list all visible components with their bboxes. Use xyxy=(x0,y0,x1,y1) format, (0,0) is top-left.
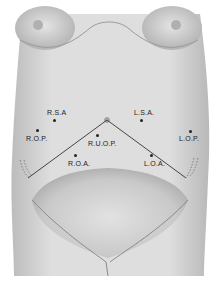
position-dot-rop xyxy=(36,129,39,132)
position-label-lsa: L.S.A. xyxy=(134,109,154,116)
obstetric-abdomen-illustration: R.S.A L.S.A. R.O.P. L.O.P. R.U.O.P. R.O.… xyxy=(0,0,218,282)
position-dot-lop xyxy=(189,130,192,133)
position-label-loa: L.O.A. xyxy=(144,160,165,167)
position-label-roa: R.O.A. xyxy=(68,160,90,167)
position-label-rsa: R.S.A xyxy=(47,109,66,116)
position-label-ruop: R.U.O.P. xyxy=(88,140,117,147)
position-dot-roa xyxy=(74,154,77,157)
position-label-rop: R.O.P. xyxy=(26,135,47,142)
position-dot-ruop xyxy=(96,134,99,137)
position-dot-loa xyxy=(150,154,153,157)
position-label-lop: L.O.P. xyxy=(179,135,199,142)
position-dot-lsa xyxy=(140,119,143,122)
position-dot-rsa xyxy=(53,119,56,122)
